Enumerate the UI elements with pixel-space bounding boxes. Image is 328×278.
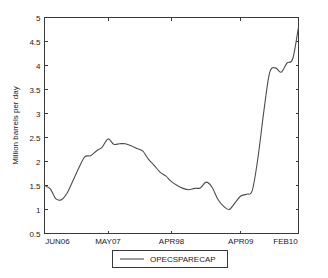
y-tick-label: 0.5 xyxy=(29,230,41,239)
legend-label: OPECSPARECAP xyxy=(150,255,216,264)
x-axis-ticks: JUN06MAY07APR98APR09FEB10 xyxy=(45,18,299,246)
y-tick-label: 4.5 xyxy=(29,38,41,47)
y-tick-label: 3 xyxy=(36,110,41,119)
y-axis-ticks: 0.511.522.533.544.55 xyxy=(29,14,298,239)
plot-border xyxy=(45,18,299,234)
y-tick-label: 2 xyxy=(36,158,41,167)
y-tick-label: 1 xyxy=(36,206,41,215)
plot-frame xyxy=(45,18,299,234)
x-tick-label: APR98 xyxy=(159,237,185,246)
y-tick-label: 3.5 xyxy=(29,86,41,95)
y-tick-label: 2.5 xyxy=(29,134,41,143)
line-chart: 0.511.522.533.544.55 JUN06MAY07APR98APR0… xyxy=(0,0,328,278)
y-tick-label: 1.5 xyxy=(29,182,41,191)
y-axis-title: Million barrels per day xyxy=(11,86,20,164)
x-tick-label: APR09 xyxy=(228,237,254,246)
y-tick-label: 5 xyxy=(36,14,41,23)
x-tick-label: MAY07 xyxy=(95,237,121,246)
chart-legend: OPECSPARECAP xyxy=(113,251,228,268)
y-tick-label: 4 xyxy=(36,62,41,71)
chart-figure: 0.511.522.533.544.55 JUN06MAY07APR98APR0… xyxy=(0,0,328,278)
x-tick-label: FEB10 xyxy=(273,237,298,246)
data-series-group xyxy=(45,27,299,209)
x-tick-label: JUN06 xyxy=(45,237,70,246)
series-line-opecsparecap xyxy=(45,27,299,209)
